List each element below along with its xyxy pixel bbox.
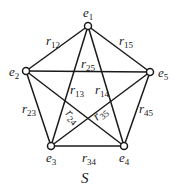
edge-label-r14: r14: [95, 82, 110, 99]
edge-label-r12: r12: [46, 33, 60, 50]
edge-labels-layer: r12r15r25r13r14r23r45r24r35r34: [22, 33, 154, 167]
edge-r35: [51, 72, 150, 146]
complete-graph-k5: r12r15r25r13r14r23r45r24r35r34 e1e2e3e4e…: [0, 0, 175, 189]
edge-label-r34: r34: [82, 150, 97, 167]
node-e1: [85, 23, 92, 30]
node-e4: [121, 143, 128, 150]
nodes-layer: [23, 23, 154, 150]
node-label-e3: e3: [46, 150, 57, 167]
node-e3: [48, 143, 55, 150]
diagram-caption: S: [81, 170, 89, 186]
node-label-e2: e2: [9, 64, 19, 81]
edge-label-r15: r15: [119, 33, 134, 50]
node-label-e1: e1: [83, 5, 93, 22]
node-label-e4: e4: [119, 150, 130, 167]
graph-diagram: r12r15r25r13r14r23r45r24r35r34 e1e2e3e4e…: [0, 0, 175, 189]
edge-label-r23: r23: [22, 101, 37, 118]
edge-label-r45: r45: [139, 101, 154, 118]
edge-label-r13: r13: [70, 82, 85, 99]
node-e5: [147, 69, 154, 76]
node-e2: [23, 68, 30, 75]
edge-label-r25: r25: [81, 56, 96, 73]
node-label-e5: e5: [158, 65, 169, 82]
